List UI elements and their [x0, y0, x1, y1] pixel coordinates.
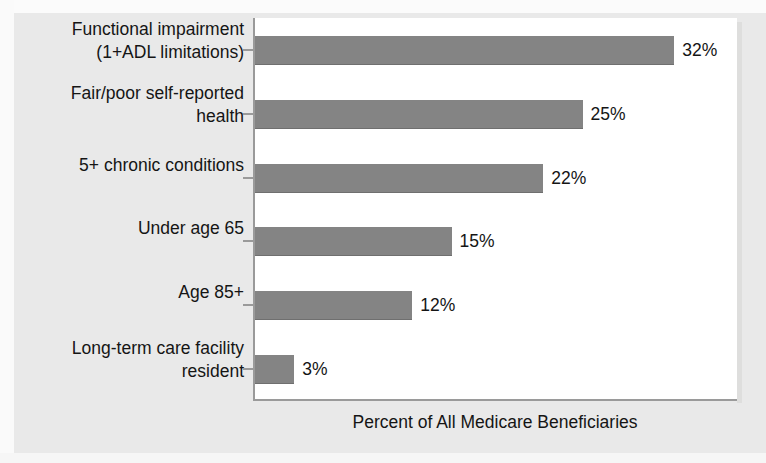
page-edge-bottom — [0, 453, 766, 463]
category-label: Age 85+ — [0, 281, 244, 304]
chart-row: Age 85+ 12% — [0, 273, 766, 337]
category-label: Under age 65 — [0, 217, 244, 240]
chart-row: Functional impairment (1+ADL limitations… — [0, 18, 766, 82]
x-axis-title: Percent of All Medicare Beneficiaries — [253, 412, 737, 433]
chart-row: Long-term care facility resident 3% — [0, 337, 766, 401]
axis-tick — [243, 49, 254, 51]
bar — [255, 36, 674, 65]
bar-value-label: 25% — [591, 101, 626, 127]
bar-chart-figure: Functional impairment (1+ADL limitations… — [0, 0, 766, 463]
bar — [255, 227, 452, 256]
category-label: Fair/poor self-reported health — [0, 82, 244, 128]
bar-value-label: 3% — [302, 356, 327, 382]
chart-row: Under age 65 15% — [0, 209, 766, 273]
bar-value-label: 15% — [460, 228, 495, 254]
axis-tick — [243, 113, 254, 115]
bar-value-label: 32% — [682, 37, 717, 63]
bar — [255, 164, 543, 193]
chart-row: 5+ chronic conditions 22% — [0, 146, 766, 210]
category-label: Long-term care facility resident — [0, 337, 244, 383]
axis-tick — [243, 177, 254, 179]
bar — [255, 100, 583, 129]
chart-row: Fair/poor self-reported health 25% — [0, 82, 766, 146]
axis-tick — [243, 304, 254, 306]
bar — [255, 291, 412, 320]
category-label: 5+ chronic conditions — [0, 154, 244, 177]
bar — [255, 355, 294, 384]
axis-tick — [243, 240, 254, 242]
category-label: Functional impairment (1+ADL limitations… — [0, 18, 244, 64]
bar-value-label: 22% — [551, 165, 586, 191]
bar-value-label: 12% — [420, 292, 455, 318]
page-edge-top — [0, 0, 766, 13]
axis-tick — [243, 368, 254, 370]
